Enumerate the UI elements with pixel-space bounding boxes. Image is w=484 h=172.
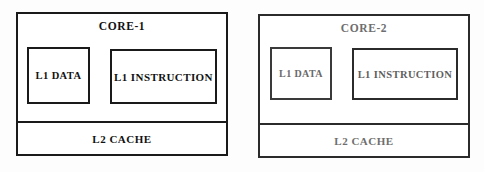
core-2-l1-instruction-box: L1 INSTRUCTION <box>352 48 458 100</box>
core-1-l2-cache-label: L2 CACHE <box>92 133 151 145</box>
core-1-l1-data-label: L1 DATA <box>36 70 82 81</box>
core-2-upper-region: CORE-2 L1 DATA L1 INSTRUCTION <box>260 16 468 125</box>
core-1-l1-instruction-box: L1 INSTRUCTION <box>110 49 217 104</box>
core-1-l2-cache-strip: L2 CACHE <box>18 123 226 154</box>
core-1-l1-data-box: L1 DATA <box>27 47 90 104</box>
diagram-canvas: CORE-1 L1 DATA L1 INSTRUCTION L2 CACHE C… <box>0 0 484 172</box>
core-block-2: CORE-2 L1 DATA L1 INSTRUCTION L2 CACHE <box>258 14 470 158</box>
core-2-title: CORE-2 <box>260 22 468 34</box>
core-1-l1-instruction-label: L1 INSTRUCTION <box>114 71 213 83</box>
core-2-l1-data-label: L1 DATA <box>279 68 323 79</box>
core-2-l2-cache-label: L2 CACHE <box>334 135 393 147</box>
core-2-l1-data-box: L1 DATA <box>270 47 332 100</box>
core-2-l2-cache-strip: L2 CACHE <box>260 125 468 156</box>
core-1-upper-region: CORE-1 L1 DATA L1 INSTRUCTION <box>18 14 226 123</box>
core-1-title: CORE-1 <box>18 20 226 32</box>
core-block-1: CORE-1 L1 DATA L1 INSTRUCTION L2 CACHE <box>16 12 228 156</box>
core-2-l1-instruction-label: L1 INSTRUCTION <box>358 69 453 80</box>
